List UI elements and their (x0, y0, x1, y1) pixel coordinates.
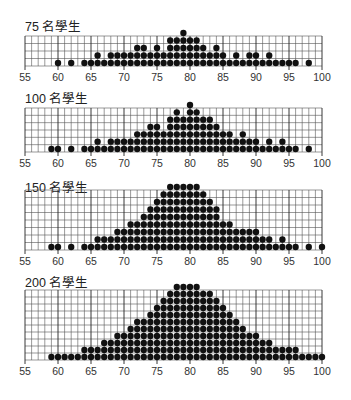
data-dot (220, 326, 226, 332)
data-dot (134, 347, 140, 353)
data-dot (253, 333, 259, 339)
data-dot (108, 354, 114, 360)
data-dot (154, 326, 160, 332)
data-dot (141, 347, 147, 353)
data-dot (180, 312, 186, 318)
data-dot (240, 333, 246, 339)
data-dot (147, 347, 153, 353)
data-dot (48, 354, 54, 360)
data-dot (220, 319, 226, 325)
data-dot (180, 298, 186, 304)
data-dot (160, 333, 166, 339)
data-dot (160, 347, 166, 353)
data-dot (273, 347, 279, 353)
data-dot (94, 354, 100, 360)
data-dot (160, 312, 166, 318)
data-dot (101, 354, 107, 360)
data-dot (75, 354, 81, 360)
data-dot (88, 354, 94, 360)
data-dot (61, 354, 67, 360)
data-dot (174, 305, 180, 311)
data-dot (121, 354, 127, 360)
dot-plot-200: 200 名學生 556065707580859095100 (0, 0, 351, 400)
data-dot (174, 347, 180, 353)
data-dot (180, 340, 186, 346)
data-dot (88, 347, 94, 353)
data-dot (68, 354, 74, 360)
data-dot (193, 298, 199, 304)
data-dot (246, 340, 252, 346)
data-dot (121, 333, 127, 339)
data-dot (121, 347, 127, 353)
data-dot (253, 347, 259, 353)
data-dot (193, 326, 199, 332)
data-dot (226, 354, 232, 360)
data-dot (114, 333, 120, 339)
data-dot (180, 333, 186, 339)
data-dot (154, 340, 160, 346)
data-dot (147, 326, 153, 332)
data-dot (81, 354, 87, 360)
dot-plot-200-svg: 556065707580859095100 (0, 0, 351, 400)
data-dot (167, 354, 173, 360)
svg-text:60: 60 (52, 365, 64, 377)
data-dot (292, 347, 298, 353)
data-dot (160, 305, 166, 311)
data-dot (259, 354, 265, 360)
data-dot (154, 319, 160, 325)
data-dot (174, 312, 180, 318)
data-dot (207, 326, 213, 332)
data-dot (121, 340, 127, 346)
data-dot (226, 340, 232, 346)
data-dot (193, 305, 199, 311)
data-dot (207, 291, 213, 297)
data-dot (174, 326, 180, 332)
data-dot (207, 347, 213, 353)
data-dot (220, 347, 226, 353)
data-dot (160, 319, 166, 325)
svg-text:65: 65 (85, 365, 97, 377)
data-dot (193, 354, 199, 360)
data-dot (81, 347, 87, 353)
data-dot (193, 319, 199, 325)
svg-text:70: 70 (118, 365, 130, 377)
data-dot (141, 319, 147, 325)
data-dot (213, 312, 219, 318)
data-dot (207, 333, 213, 339)
data-dot (127, 347, 133, 353)
data-dot (55, 354, 61, 360)
data-dot (167, 347, 173, 353)
data-dot (200, 312, 206, 318)
data-dot (233, 333, 239, 339)
data-dot (193, 312, 199, 318)
data-dot (180, 291, 186, 297)
data-dot (154, 354, 160, 360)
data-dot (233, 319, 239, 325)
data-dot (127, 354, 133, 360)
data-dot (193, 333, 199, 339)
data-dot (141, 340, 147, 346)
data-dot (193, 340, 199, 346)
data-dot (134, 326, 140, 332)
data-dot (200, 319, 206, 325)
data-dot (174, 298, 180, 304)
data-dot (160, 354, 166, 360)
data-dot (160, 340, 166, 346)
data-dot (154, 333, 160, 339)
data-dot (240, 354, 246, 360)
data-dot (160, 326, 166, 332)
data-dot (220, 312, 226, 318)
data-dot (299, 354, 305, 360)
data-dot (233, 340, 239, 346)
data-dot (213, 298, 219, 304)
data-dot (147, 312, 153, 318)
data-dot (306, 354, 312, 360)
data-dot (101, 340, 107, 346)
data-dot (141, 333, 147, 339)
data-dot (207, 354, 213, 360)
data-dot (200, 333, 206, 339)
data-dot (279, 347, 285, 353)
data-dot (127, 340, 133, 346)
data-dot (167, 333, 173, 339)
data-dot (187, 347, 193, 353)
